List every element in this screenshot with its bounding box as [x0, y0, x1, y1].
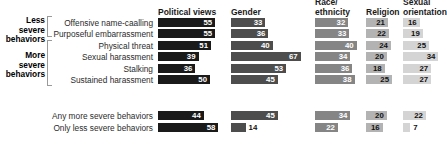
severity-label-more: Moreseverebehaviors	[6, 51, 45, 80]
bar-gender-3: 67	[231, 52, 301, 61]
row-label-0: Offensive name-caalling	[64, 18, 153, 28]
bar-race-4-value: 36	[341, 64, 350, 73]
bar-orientation-2: 25	[403, 41, 429, 50]
summary-bar-gender-0-value: 45	[266, 111, 275, 120]
bar-political-5: 50	[158, 75, 210, 84]
bar-political-4: 36	[158, 64, 195, 73]
bar-gender-0-value: 33	[254, 18, 263, 27]
bar-political-0-value: 55	[204, 18, 213, 27]
bar-gender-1: 36	[231, 29, 268, 38]
bar-orientation-0: 16	[403, 18, 420, 27]
bar-gender-4: 53	[231, 64, 286, 73]
summary-bar-race-1-value: 22	[326, 123, 335, 132]
bar-orientation-5-value: 27	[419, 75, 428, 84]
bar-race-2: 40	[315, 41, 357, 50]
bar-political-2: 51	[158, 41, 211, 50]
bar-religion-4-value: 18	[373, 64, 382, 73]
summary-row-label-1: Only less severe behaviors	[53, 123, 153, 133]
bar-gender-4-value: 53	[274, 64, 283, 73]
summary-bar-political-0: 44	[158, 111, 204, 120]
row-label-2: Physical threat	[99, 41, 153, 51]
bar-race-0-value: 32	[337, 18, 346, 27]
summary-bar-religion-1: 16	[366, 123, 383, 132]
bar-gender-2-value: 40	[261, 41, 270, 50]
bar-race-0: 32	[315, 18, 348, 27]
summary-bar-gender-1-value: 14	[249, 123, 258, 132]
bar-orientation-4: 27	[403, 64, 431, 73]
summary-bar-gender-0: 45	[231, 111, 278, 120]
bar-religion-1-value: 22	[377, 29, 386, 38]
bar-religion-5-value: 25	[380, 75, 389, 84]
bar-political-0: 55	[158, 18, 215, 27]
bar-orientation-3-value: 34	[427, 52, 436, 61]
row-label-1: Purposeful embarrassment	[53, 29, 153, 39]
severity-label-less-line3: behaviors	[6, 35, 45, 45]
bar-gender-5: 45	[231, 75, 278, 84]
severity-label-less: Lessseverebehaviors	[6, 16, 45, 45]
bar-religion-1: 22	[366, 29, 389, 38]
column-header-political: Political views	[158, 0, 216, 17]
bar-orientation-0-value: 16	[408, 18, 417, 27]
bar-race-1: 33	[315, 29, 349, 38]
bar-gender-2: 40	[231, 41, 273, 50]
column-header-line2-religion: Religion	[366, 8, 400, 18]
bar-orientation-5: 27	[403, 75, 431, 84]
severity-bracket-more	[47, 40, 52, 86]
bar-race-5: 38	[315, 75, 355, 84]
summary-bar-political-1-value: 58	[207, 123, 216, 132]
summary-bar-religion-0-value: 20	[375, 111, 384, 120]
summary-bar-race-0-value: 34	[339, 111, 348, 120]
severity-bracket-less	[47, 16, 52, 37]
bar-race-3-value: 34	[339, 52, 348, 61]
column-header-line2-gender: Gender	[231, 8, 261, 18]
bar-political-1: 55	[158, 29, 215, 38]
summary-bar-gender-1: 14	[231, 123, 246, 132]
bar-political-4-value: 36	[184, 64, 193, 73]
summary-bar-political-1: 58	[158, 123, 218, 132]
bar-orientation-4-value: 27	[419, 64, 428, 73]
bar-religion-4: 18	[366, 64, 385, 73]
bar-race-1-value: 33	[338, 29, 347, 38]
summary-bar-orientation-0: 22	[403, 111, 426, 120]
summary-bar-race-0: 34	[315, 111, 350, 120]
bar-religion-3: 20	[366, 52, 387, 61]
bar-religion-0-value: 21	[376, 18, 385, 27]
bar-orientation-1-value: 19	[411, 29, 420, 38]
summary-bar-orientation-1-value: 7	[413, 123, 417, 132]
row-label-5: Sustained harassment	[70, 75, 153, 85]
bar-religion-5: 25	[366, 75, 392, 84]
column-header-line2-orientation: orientation	[403, 8, 447, 18]
bar-religion-3-value: 20	[375, 52, 384, 61]
bar-political-3-value: 39	[187, 52, 196, 61]
bar-gender-5-value: 45	[266, 75, 275, 84]
summary-bar-religion-1-value: 16	[371, 123, 380, 132]
bar-political-3: 39	[158, 52, 199, 61]
column-header-line2-race: ethnicity	[315, 8, 350, 18]
bar-orientation-2-value: 25	[417, 41, 426, 50]
bar-race-5-value: 38	[343, 75, 352, 84]
summary-bar-orientation-1: 7	[403, 123, 410, 132]
severity-label-more-line3: behaviors	[6, 70, 45, 80]
summary-bar-orientation-0-value: 22	[414, 111, 423, 120]
summary-bar-race-1: 22	[315, 123, 338, 132]
bar-religion-0: 21	[366, 18, 388, 27]
bar-gender-1-value: 36	[257, 29, 266, 38]
bar-gender-3-value: 67	[289, 52, 298, 61]
bar-religion-2: 24	[366, 41, 391, 50]
summary-bar-political-0-value: 44	[192, 111, 201, 120]
bar-orientation-3: 34	[403, 52, 438, 61]
bar-political-1-value: 55	[204, 29, 213, 38]
column-header-orientation: Sexualorientation	[403, 0, 447, 17]
bar-race-2-value: 40	[345, 41, 354, 50]
bar-race-4: 36	[315, 64, 352, 73]
column-header-gender: Gender	[231, 0, 261, 17]
summary-bar-religion-0: 20	[366, 111, 387, 120]
bar-gender-0: 33	[231, 18, 265, 27]
row-label-4: Stalking	[123, 64, 153, 74]
bar-religion-2-value: 24	[379, 41, 388, 50]
bar-political-2-value: 51	[199, 41, 208, 50]
bar-political-5-value: 50	[198, 75, 207, 84]
summary-row-label-0: Any more severe behaviors	[52, 111, 153, 121]
row-label-3: Sexual harassment	[82, 52, 153, 62]
